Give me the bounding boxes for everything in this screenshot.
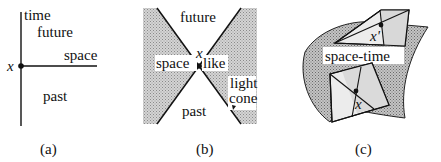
label-past: past <box>43 88 68 104</box>
event-point <box>18 63 24 69</box>
label-past: past <box>182 103 207 119</box>
label-cone: cone <box>229 90 258 106</box>
label-future: future <box>37 24 73 40</box>
panel-c: x' space-time x (c) <box>303 10 428 158</box>
label-x: x <box>354 96 362 112</box>
label-future: future <box>180 9 216 25</box>
panel-a: time future space x past (a) <box>6 7 98 158</box>
label-light: light <box>230 75 258 91</box>
caption-c: (c) <box>355 141 372 158</box>
label-x: x <box>6 58 14 74</box>
spacetime-diagram: time future space x past (a) future x sp… <box>0 0 441 162</box>
event-point-top <box>379 23 384 28</box>
label-x-prime: x' <box>369 28 381 44</box>
caption-a: (a) <box>40 141 57 158</box>
event-point <box>196 63 202 69</box>
label-space: space <box>156 55 190 71</box>
label-time: time <box>24 7 51 23</box>
label-space: space <box>64 47 98 63</box>
label-spacetime: space-time <box>325 48 390 64</box>
label-x: x <box>195 45 203 61</box>
event-point-bottom <box>354 89 359 94</box>
caption-b: (b) <box>196 141 214 158</box>
label-like: like <box>203 55 226 71</box>
panel-b: future x space like light cone past (b) <box>143 8 258 158</box>
